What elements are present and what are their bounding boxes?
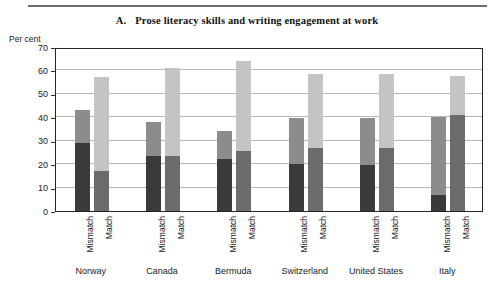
x-axis-sublabel-match: Match (176, 216, 186, 239)
bar-segment-upper (165, 68, 180, 156)
gridline (56, 140, 482, 141)
bar-segment-lower (165, 156, 180, 211)
chart-page: A.Prose literacy skills and writing enga… (0, 0, 494, 291)
x-axis-sublabel-mismatch: Mismatch (228, 216, 238, 252)
y-axis-tick-mark (51, 142, 55, 143)
x-axis-sublabel-match: Match (461, 216, 471, 239)
y-axis-tick-mark (51, 165, 55, 166)
title-letter: A. (116, 15, 127, 26)
bar-bermuda-mismatch (217, 131, 232, 211)
y-axis-tick-label: 30 (10, 137, 48, 146)
bar-segment-lower (450, 115, 465, 211)
bar-bermuda-match (236, 61, 251, 211)
x-axis-group-label-italy: Italy (439, 266, 456, 276)
x-axis-sublabel-match: Match (104, 216, 114, 239)
x-axis-sublabel-mismatch: Mismatch (371, 216, 381, 252)
x-axis-group-label-switzerland: Switzerland (281, 266, 328, 276)
bar-segment-lower (431, 195, 446, 211)
y-axis-tick-mark (51, 48, 55, 49)
bar-segment-lower (146, 156, 161, 211)
y-axis-tick-mark (51, 71, 55, 72)
gridline (56, 187, 482, 188)
y-axis-tick-label: 20 (10, 161, 48, 170)
bar-segment-lower (379, 148, 394, 211)
y-axis-tick-label: 0 (10, 208, 48, 217)
bar-segment-upper (360, 118, 375, 165)
y-axis-tick-mark (51, 118, 55, 119)
y-axis-unit-label: Per cent (9, 34, 41, 44)
bar-segment-upper (431, 117, 446, 194)
bar-segment-lower (360, 165, 375, 211)
y-axis-tick-mark (51, 95, 55, 96)
bar-norway-match (94, 77, 109, 211)
plot-inner (56, 49, 482, 211)
top-rule (28, 5, 487, 7)
plot-area (55, 48, 483, 212)
y-axis-tick-label: 70 (10, 44, 48, 53)
y-axis-tick-mark (51, 212, 55, 213)
bar-italy-mismatch (431, 117, 446, 211)
page-title: A.Prose literacy skills and writing enga… (0, 15, 494, 26)
x-axis-group-label-canada: Canada (146, 266, 178, 276)
bar-segment-upper (146, 122, 161, 156)
bar-segment-lower (236, 151, 251, 211)
x-axis-sublabel-match: Match (390, 216, 400, 239)
gridline (56, 93, 482, 94)
x-axis-sublabel-mismatch: Mismatch (442, 216, 452, 252)
x-axis-group-label-norway: Norway (75, 266, 106, 276)
x-axis-group-label-united-states: United States (349, 266, 403, 276)
bar-canada-match (165, 68, 180, 211)
bar-segment-lower (75, 143, 90, 211)
bar-segment-upper (379, 74, 394, 148)
y-axis-tick-label: 10 (10, 184, 48, 193)
bar-segment-lower (308, 148, 323, 211)
bar-segment-upper (217, 131, 232, 159)
y-axis-tick-mark (51, 189, 55, 190)
bar-segment-lower (217, 159, 232, 211)
x-axis-sublabel-match: Match (318, 216, 328, 239)
y-axis-tick-label: 60 (10, 67, 48, 76)
bar-segment-lower (94, 171, 109, 211)
gridline (56, 116, 482, 117)
bar-segment-upper (450, 76, 465, 115)
gridline (56, 163, 482, 164)
bar-segment-upper (236, 61, 251, 151)
bar-switzerland-match (308, 74, 323, 211)
bar-united-states-mismatch (360, 118, 375, 211)
bar-segment-upper (308, 74, 323, 148)
bar-segment-upper (289, 118, 304, 164)
bar-segment-lower (289, 164, 304, 211)
bar-switzerland-mismatch (289, 118, 304, 211)
bar-united-states-match (379, 74, 394, 211)
y-axis-tick-label: 50 (10, 90, 48, 99)
x-axis-sublabel-mismatch: Mismatch (299, 216, 309, 252)
x-axis-sublabel-mismatch: Mismatch (85, 216, 95, 252)
bar-canada-mismatch (146, 122, 161, 211)
x-axis-sublabel-mismatch: Mismatch (157, 216, 167, 252)
x-axis-sublabel-match: Match (247, 216, 257, 239)
y-axis-tick-label: 40 (10, 114, 48, 123)
title-text: Prose literacy skills and writing engage… (135, 15, 378, 26)
bar-norway-mismatch (75, 110, 90, 211)
gridline (56, 69, 482, 70)
bar-italy-match (450, 76, 465, 211)
x-axis-group-label-bermuda: Bermuda (215, 266, 252, 276)
bar-segment-upper (75, 110, 90, 143)
bar-segment-upper (94, 77, 109, 171)
